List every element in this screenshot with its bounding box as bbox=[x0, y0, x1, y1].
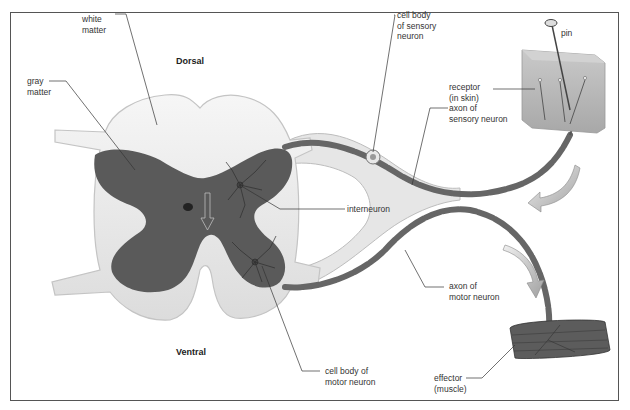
leader-motor-axon bbox=[405, 250, 444, 287]
label-receptor: receptor (in skin) bbox=[449, 82, 480, 103]
label-gray-matter: gray matter bbox=[27, 76, 51, 97]
sensory-cell-body bbox=[366, 150, 380, 164]
label-white-matter: white matter bbox=[82, 14, 106, 35]
receptor-icon bbox=[538, 78, 541, 81]
muscle-effector bbox=[510, 320, 610, 359]
label-interneuron: interneuron bbox=[347, 204, 390, 215]
sensory-flow-arrow-icon bbox=[528, 165, 580, 212]
label-sensory-axon: axon of sensory neuron bbox=[449, 103, 508, 124]
skin-block bbox=[522, 50, 605, 133]
reflex-arc-diagram bbox=[0, 0, 630, 410]
label-motor-axon: axon of motor neuron bbox=[449, 281, 500, 302]
label-sensory-cell-body: cell body of sensory neuron bbox=[397, 10, 436, 42]
label-ventral: Ventral bbox=[176, 347, 206, 358]
leader-sensory-axon bbox=[412, 108, 448, 185]
leader-sensory-cell-body bbox=[373, 15, 395, 152]
leader-effector bbox=[466, 345, 515, 378]
central-canal bbox=[183, 203, 193, 211]
label-dorsal: Dorsal bbox=[176, 56, 204, 67]
label-motor-cell-body: cell body of motor neuron bbox=[325, 366, 376, 387]
label-effector: effector (muscle) bbox=[434, 373, 467, 394]
label-pin: pin bbox=[561, 28, 572, 39]
